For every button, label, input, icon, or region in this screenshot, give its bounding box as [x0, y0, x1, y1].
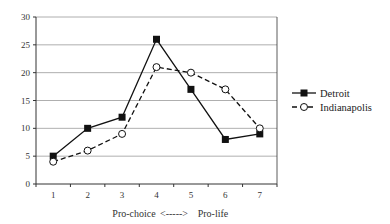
x-label-pro-choice: Pro-choice: [112, 208, 156, 219]
circle-marker: [153, 64, 160, 71]
legend-label: Detroit: [320, 88, 350, 99]
square-marker: [187, 86, 194, 93]
x-tick-label: 4: [154, 190, 159, 200]
line-chart: 051015202530 1234567 Pro-choice <-----> …: [0, 0, 390, 224]
square-marker: [84, 125, 91, 132]
legend-label: Indianapolis: [320, 102, 372, 113]
x-tick-label: 3: [120, 190, 125, 200]
x-tick-label: 1: [51, 190, 56, 200]
y-tick-label: 30: [21, 12, 31, 22]
circle-marker: [119, 130, 126, 137]
y-tick-label: 20: [21, 68, 31, 78]
legend-item-detroit: Detroit: [292, 88, 350, 99]
circle-marker: [187, 69, 194, 76]
circle-marker: [256, 125, 263, 132]
series-indianapolis: [50, 64, 264, 166]
legend-circle-icon: [301, 104, 308, 111]
x-tick-label: 7: [258, 190, 263, 200]
x-tick-label: 2: [85, 190, 90, 200]
legend-square-icon: [301, 90, 308, 97]
y-tick-label: 10: [21, 123, 31, 133]
x-tick-label: 5: [189, 190, 194, 200]
legend: DetroitIndianapolis: [292, 88, 372, 113]
y-tick-label: 25: [21, 40, 31, 50]
x-label-pro-life: Pro-life: [198, 208, 229, 219]
circle-marker: [84, 147, 91, 154]
y-tick-label: 15: [21, 96, 31, 106]
circle-marker: [50, 158, 57, 165]
square-marker: [222, 136, 229, 143]
x-axis-label: Pro-choice <-----> Pro-life: [112, 208, 228, 219]
x-label-arrow: <----->: [160, 208, 188, 219]
series-detroit: [50, 36, 264, 160]
y-axis-ticks: 051015202530: [21, 12, 36, 189]
square-marker: [119, 114, 126, 121]
x-tick-label: 6: [223, 190, 228, 200]
y-tick-label: 5: [26, 151, 31, 161]
series-line: [53, 67, 260, 162]
square-marker: [153, 36, 160, 43]
y-tick-label: 0: [26, 179, 31, 189]
x-axis-ticks: 1234567: [36, 184, 277, 200]
legend-item-indianapolis: Indianapolis: [292, 102, 372, 113]
circle-marker: [222, 86, 229, 93]
